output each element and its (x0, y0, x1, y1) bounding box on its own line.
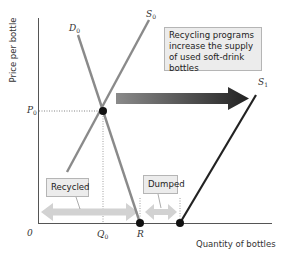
origin-label: 0 (27, 229, 33, 238)
supply-curve-s1 (180, 95, 256, 223)
price-tick-p0: P0 (27, 106, 37, 116)
supply-shift-arrow (116, 87, 249, 110)
y-axis-label: Price per bottle (6, 20, 20, 80)
supply-demand-diagram: Price per bottle Quantity of bottles 0 D… (0, 0, 284, 261)
tick-r: R (137, 230, 144, 239)
supply-label-s0: S0 (146, 10, 156, 20)
recycled-leader (76, 197, 80, 209)
x-axis-label: Quantity of bottles (196, 240, 276, 249)
demand-label-d0: D0 (69, 24, 80, 34)
recycled-callout: Recycled (46, 178, 89, 197)
point-s1-intercept (176, 219, 184, 227)
quantity-tick-q0: Q0 (97, 230, 108, 240)
dumped-leader (158, 194, 161, 208)
equilibrium-point (99, 107, 107, 115)
point-r (136, 219, 144, 227)
recycled-range-arrow (41, 203, 138, 221)
dumped-callout: Dumped (143, 175, 178, 194)
supply-label-s1: S1 (258, 78, 268, 88)
recycling-callout: Recycling programs increase the supply o… (164, 27, 262, 71)
